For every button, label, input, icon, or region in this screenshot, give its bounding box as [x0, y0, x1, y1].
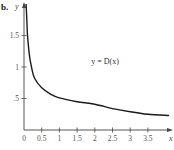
x-tick-label: 2 [93, 134, 97, 143]
axes [22, 2, 173, 132]
x-tick-label: 3.5 [143, 134, 153, 143]
y-axis-label: y [14, 2, 19, 11]
x-tick-label: 1 [58, 134, 62, 143]
y-axis-arrow-icon [22, 2, 26, 8]
x-axis-arrow-icon [167, 128, 173, 132]
curve-label: y = D(x) [91, 57, 119, 66]
chart: b. 00.511.522.533.5 .511.5 y x y = D(x) [0, 0, 174, 150]
x-tick-label: 0 [22, 134, 26, 143]
y-tick-label: .5 [13, 94, 19, 103]
y-tick-label: 1.5 [10, 31, 20, 40]
part-label: b. [1, 2, 8, 12]
x-tick-label: 1.5 [72, 134, 82, 143]
x-tick-label: 2.5 [108, 134, 118, 143]
x-tick-label: 3 [128, 134, 132, 143]
x-axis-label: x [168, 134, 173, 143]
x-tick-label: 0.5 [37, 134, 47, 143]
y-tick-label: 1 [15, 63, 19, 72]
